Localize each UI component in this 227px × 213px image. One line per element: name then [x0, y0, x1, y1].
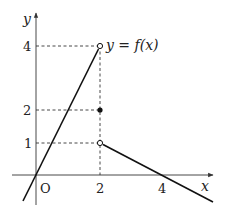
- y-axis-label: y: [22, 11, 32, 27]
- x-axis-label: x: [201, 178, 209, 194]
- filled-point-2-2: [97, 107, 102, 112]
- tick-label-y2: 2: [23, 103, 31, 118]
- open-point-2-1: [97, 140, 102, 145]
- left-piece-line: [23, 49, 99, 201]
- tick-label-x4: 4: [158, 181, 166, 196]
- tick-label-x2: 2: [96, 181, 104, 196]
- tick-label-y4: 4: [23, 39, 31, 54]
- tick-label-y1: 1: [24, 136, 32, 151]
- function-label: y = f(x): [105, 37, 159, 53]
- origin-label: O: [40, 181, 51, 196]
- open-point-2-4: [97, 43, 102, 48]
- function-graph: y x O 2 4 4 2 1 y = f(x): [0, 0, 227, 213]
